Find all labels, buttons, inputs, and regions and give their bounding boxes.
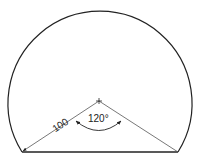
radius-line-right <box>99 101 178 152</box>
segment-diagram: 100 120° <box>0 0 199 164</box>
angle-label: 120° <box>88 113 109 124</box>
radius-label: 100 <box>50 116 70 135</box>
